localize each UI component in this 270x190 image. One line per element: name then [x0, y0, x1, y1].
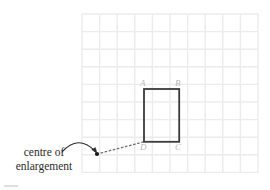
rectangle-shape	[144, 89, 179, 142]
vertex-label-d: D	[140, 143, 147, 152]
enlargement-figure: A B C D centre of enlargement	[0, 0, 270, 190]
vertex-label-c: C	[175, 143, 181, 152]
square-grid	[82, 14, 258, 172]
enlargement-ray-dotted	[97, 142, 144, 154]
vertex-label-b: B	[175, 79, 181, 88]
caption-line-2: enlargement	[6, 160, 82, 174]
vertex-label-a: A	[140, 79, 146, 88]
centre-of-enlargement-caption: centre of enlargement	[6, 146, 82, 173]
caption-line-1: centre of	[6, 146, 82, 160]
